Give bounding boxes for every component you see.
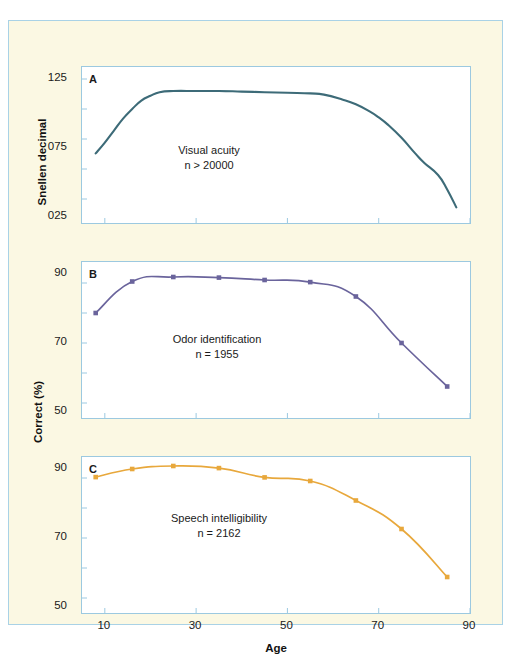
figure-container: Snellen decimal Correct (%) 125 075 025 … bbox=[8, 20, 503, 625]
data-point-marker bbox=[93, 475, 98, 480]
panel-b: 90 70 50 B Odor identification n = 1955 bbox=[9, 216, 504, 411]
x-tick-label-30: 30 bbox=[182, 619, 208, 631]
panel-c: 90 70 50 C Speech intelligibility n = 21… bbox=[9, 411, 504, 626]
data-point-marker bbox=[262, 475, 267, 480]
data-point-marker bbox=[217, 275, 222, 280]
panel-c-annotation-line2: n = 2162 bbox=[124, 526, 314, 541]
data-point-marker bbox=[262, 278, 267, 283]
panel-b-ytick-70: 70 bbox=[33, 335, 67, 347]
data-point-marker bbox=[399, 341, 404, 346]
data-point-marker bbox=[130, 279, 135, 284]
x-tick-label-90: 90 bbox=[456, 619, 482, 631]
x-tick-label-10: 10 bbox=[91, 619, 117, 631]
data-point-marker bbox=[171, 464, 176, 469]
panel-a-annotation-line1: Visual acuity bbox=[129, 143, 289, 158]
x-tick-label-50: 50 bbox=[273, 619, 299, 631]
data-point-marker bbox=[354, 294, 359, 299]
panel-b-annotation: Odor identification n = 1955 bbox=[127, 332, 307, 361]
panel-b-annotation-line1: Odor identification bbox=[127, 332, 307, 347]
panel-b-letter: B bbox=[89, 268, 97, 280]
panel-a-annotation-line2: n > 20000 bbox=[129, 158, 289, 173]
data-point-marker bbox=[445, 575, 450, 580]
panel-a: 125 075 025 A Visual acuity n > 20000 bbox=[9, 21, 504, 216]
panel-a-annotation: Visual acuity n > 20000 bbox=[129, 143, 289, 172]
data-point-marker bbox=[445, 384, 450, 389]
data-point-marker bbox=[399, 527, 404, 532]
panel-b-ytick-90: 90 bbox=[33, 266, 67, 278]
panel-c-ytick-70: 70 bbox=[33, 530, 67, 542]
panel-c-annotation: Speech intelligibility n = 2162 bbox=[124, 511, 314, 540]
x-axis-title: Age bbox=[226, 642, 326, 654]
panel-a-letter: A bbox=[89, 73, 97, 85]
data-point-marker bbox=[354, 498, 359, 503]
data-point-marker bbox=[171, 275, 176, 280]
panel-c-ytick-90: 90 bbox=[33, 461, 67, 473]
panel-c-letter: C bbox=[89, 463, 97, 475]
data-point-marker bbox=[308, 280, 313, 285]
panel-c-annotation-line1: Speech intelligibility bbox=[124, 511, 314, 526]
panel-a-ytick-125: 125 bbox=[33, 71, 67, 83]
panel-b-annotation-line2: n = 1955 bbox=[127, 347, 307, 362]
data-point-marker bbox=[217, 466, 222, 471]
data-point-marker bbox=[308, 479, 313, 484]
data-point-marker bbox=[130, 467, 135, 472]
x-tick-label-70: 70 bbox=[365, 619, 391, 631]
data-point-marker bbox=[93, 311, 98, 316]
panel-a-ytick-075: 075 bbox=[33, 140, 67, 152]
panel-c-ytick-50: 50 bbox=[33, 599, 67, 611]
